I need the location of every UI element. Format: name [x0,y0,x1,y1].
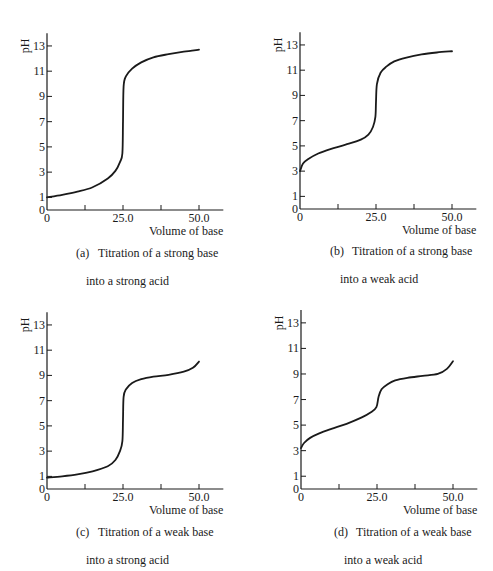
y-tick-label: 3 [293,444,299,458]
x-tick-label: 0 [298,490,304,504]
y-tick-label: 11 [287,341,299,355]
axes: 0135791113025.050.0Volume of basepH [272,310,477,517]
y-tick-label: 13 [287,316,299,330]
y-tick-label: 7 [293,393,299,407]
titration-curve [301,361,453,448]
chart-panel-d: 0135791113025.050.0Volume of basepH (d)T… [0,0,246,277]
x-tick-label: 50.0 [443,490,464,504]
y-axis-title: pH [272,315,286,330]
chart-d-caption: (d)Titration of a weak base into a weak … [322,511,472,571]
x-tick-label: 25.0 [367,490,388,504]
y-tick-label: 1 [293,469,299,483]
y-tick-label: 9 [293,367,299,381]
y-tick-label: 5 [293,418,299,432]
